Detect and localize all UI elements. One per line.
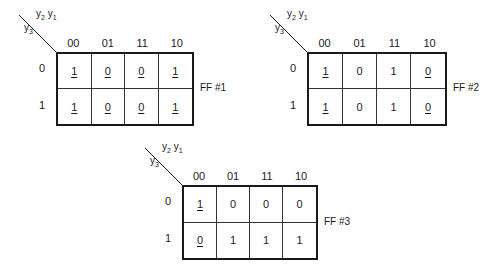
- cell-value: 0: [105, 101, 111, 113]
- column-header: 11: [250, 170, 284, 182]
- cell-value: 0: [138, 101, 144, 113]
- cell-value: 1: [390, 101, 396, 113]
- flip-flop-label: FF #1: [200, 82, 226, 93]
- column-header: 10: [160, 37, 194, 49]
- kmap-cell: 0: [283, 187, 316, 223]
- kmap-cell: 1: [377, 54, 411, 89]
- cell-value: 1: [322, 101, 328, 113]
- row-header: 1: [287, 99, 299, 111]
- cell-value: 1: [197, 198, 203, 210]
- column-variable-label: y2 y1: [162, 141, 183, 154]
- kmap-cell: 0: [184, 223, 217, 259]
- column-header: 10: [413, 37, 447, 49]
- cell-value: 0: [263, 198, 269, 210]
- row-header: 0: [287, 62, 299, 74]
- diagonal-divider: [0, 0, 1, 1]
- cell-value: 1: [390, 65, 396, 77]
- cell-value: 0: [425, 101, 431, 113]
- row-variable-label: y3: [275, 22, 284, 35]
- cell-value: 0: [356, 65, 362, 77]
- cell-value: 1: [71, 65, 77, 77]
- cell-value: 0: [425, 65, 431, 77]
- cell-value: 0: [105, 65, 111, 77]
- column-variable-label: y2 y1: [36, 8, 57, 21]
- kmap-cell: 0: [250, 187, 283, 223]
- kmap-cell: 0: [92, 89, 126, 124]
- cell-value: 0: [356, 101, 362, 113]
- kmap-cell: 1: [309, 54, 343, 89]
- cell-value: 1: [172, 101, 178, 113]
- kmap-cell: 1: [283, 223, 316, 259]
- kmap-cell: 0: [343, 89, 377, 124]
- kmap-cell: 1: [159, 54, 193, 89]
- cell-value: 0: [296, 198, 302, 210]
- row-variable-label: y3: [24, 22, 33, 35]
- column-header: 00: [56, 37, 90, 49]
- column-header: 01: [91, 37, 125, 49]
- cell-value: 0: [230, 198, 236, 210]
- column-header: 11: [125, 37, 159, 49]
- kmap-cell: 1: [159, 89, 193, 124]
- kmap-cell: 0: [125, 54, 159, 89]
- column-header: 00: [308, 37, 342, 49]
- kmap-cell: 1: [309, 89, 343, 124]
- flip-flop-label: FF #2: [453, 82, 479, 93]
- kmap-cell: 0: [343, 54, 377, 89]
- kmap-cell: 1: [217, 223, 250, 259]
- cell-value: 0: [197, 234, 203, 246]
- cell-value: 1: [172, 65, 178, 77]
- kmap-grid: 10000111: [182, 185, 318, 260]
- kmap-cell: 0: [411, 54, 445, 89]
- column-header: 00: [182, 170, 216, 182]
- kmap-cell: 0: [217, 187, 250, 223]
- column-header: 01: [343, 37, 377, 49]
- kmap-cell: 1: [377, 89, 411, 124]
- kmap-cell: 0: [411, 89, 445, 124]
- column-header: 01: [216, 170, 250, 182]
- kmap-cell: 0: [92, 54, 126, 89]
- kmap-cell: 1: [58, 54, 92, 89]
- flip-flop-label: FF #3: [324, 216, 350, 227]
- kmap-grid: 10101010: [307, 52, 447, 126]
- kmap-cell: 1: [58, 89, 92, 124]
- cell-value: 1: [296, 234, 302, 246]
- row-variable-label: y3: [150, 155, 159, 168]
- column-header: 11: [378, 37, 412, 49]
- row-header: 1: [162, 232, 174, 244]
- cell-value: 1: [263, 234, 269, 246]
- kmap-grid: 10011001: [56, 52, 194, 126]
- kmap-cell: 1: [250, 223, 283, 259]
- kmap-cell: 0: [125, 89, 159, 124]
- cell-value: 1: [71, 101, 77, 113]
- column-variable-label: y2 y1: [287, 8, 308, 21]
- kmap-cell: 1: [184, 187, 217, 223]
- cell-value: 1: [230, 234, 236, 246]
- column-header: 10: [284, 170, 318, 182]
- row-header: 0: [36, 62, 48, 74]
- row-header: 0: [162, 195, 174, 207]
- row-header: 1: [36, 99, 48, 111]
- cell-value: 0: [138, 65, 144, 77]
- cell-value: 1: [322, 65, 328, 77]
